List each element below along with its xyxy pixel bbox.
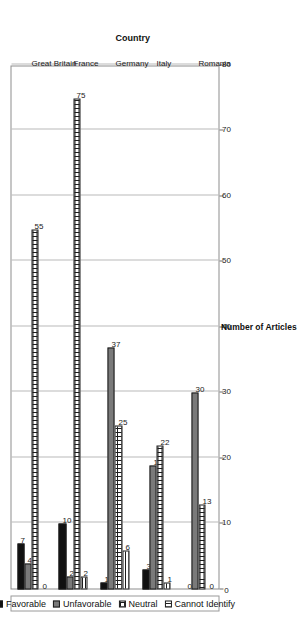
bar-cannot-identify[interactable] bbox=[80, 576, 87, 589]
value-axis-title: Number of Articles bbox=[253, 65, 263, 589]
bar-unfavorable[interactable] bbox=[107, 347, 114, 589]
bar-row: 4 bbox=[24, 65, 31, 589]
bar-row: 22 bbox=[156, 65, 163, 589]
bar-value-label: 6 bbox=[125, 543, 129, 551]
axis-tick-label: 10 bbox=[222, 519, 231, 527]
legend-swatch-icon bbox=[118, 600, 125, 607]
chart-figure: FavorableUnfavorableNeutralCannot Identi… bbox=[0, 0, 299, 633]
axis-tick-label: 0 bbox=[224, 587, 228, 595]
bar-unfavorable[interactable] bbox=[149, 465, 156, 589]
bar-unfavorable[interactable] bbox=[66, 576, 73, 589]
bar-group: 102752 bbox=[52, 65, 94, 589]
bar-cannot-identify[interactable] bbox=[122, 550, 129, 589]
rotated-chart-stage: FavorableUnfavorableNeutralCannot Identi… bbox=[0, 0, 299, 633]
bar-row: 2 bbox=[80, 65, 87, 589]
legend-label: Cannot Identify bbox=[174, 598, 235, 608]
legend-item[interactable]: Neutral bbox=[118, 598, 157, 608]
legend-swatch-icon bbox=[52, 600, 59, 607]
bar-unfavorable[interactable] bbox=[191, 393, 198, 590]
category-label: Great Britain bbox=[31, 59, 76, 67]
value-axis-title-text: Number of Articles bbox=[220, 323, 296, 332]
category-label: Italy bbox=[156, 59, 171, 67]
bar-neutral[interactable] bbox=[73, 98, 80, 589]
bar-value-label: 0 bbox=[42, 582, 46, 590]
axis-tick-label: 20 bbox=[222, 454, 231, 462]
bar-groups: 74550102752137256319221030130 bbox=[10, 65, 219, 589]
bar-value-label: 2 bbox=[83, 569, 87, 577]
bar-row: 55 bbox=[31, 65, 38, 589]
legend-label: Neutral bbox=[128, 598, 157, 608]
bar-row: 19 bbox=[149, 65, 156, 589]
chart-legend: FavorableUnfavorableNeutralCannot Identi… bbox=[10, 595, 219, 611]
bar-row: 7 bbox=[17, 65, 24, 589]
bar-favorable[interactable] bbox=[17, 543, 24, 589]
category-axis-title-text: Country bbox=[115, 32, 150, 42]
bar-neutral[interactable] bbox=[156, 445, 163, 589]
bar-row: 37 bbox=[107, 65, 114, 589]
bar-group: 137256 bbox=[94, 65, 136, 589]
axis-tick bbox=[219, 588, 223, 589]
bar-value-label: 0 bbox=[209, 582, 213, 590]
bar-row: 0 bbox=[205, 65, 212, 589]
axis-tick-label: 50 bbox=[222, 257, 231, 265]
bar-row: 0 bbox=[38, 65, 45, 589]
legend-label: Favorable bbox=[5, 598, 45, 608]
axis-tick-label: 70 bbox=[222, 126, 231, 134]
category-label: France bbox=[73, 59, 98, 67]
bar-neutral[interactable] bbox=[198, 504, 205, 589]
bar-group: 319221 bbox=[135, 65, 177, 589]
bar-value-label: 1 bbox=[167, 575, 171, 583]
bar-row: 2 bbox=[66, 65, 73, 589]
axis-tick-label: 60 bbox=[222, 192, 231, 200]
category-label: Germany bbox=[115, 59, 148, 67]
legend-item[interactable]: Unfavorable bbox=[52, 598, 111, 608]
category-label: Romania bbox=[198, 59, 230, 67]
bar-group: 030130 bbox=[177, 65, 219, 589]
legend-swatch-icon bbox=[0, 600, 2, 607]
bar-neutral[interactable] bbox=[31, 229, 38, 589]
bar-row: 10 bbox=[58, 65, 65, 589]
bar-favorable[interactable] bbox=[142, 569, 149, 589]
legend-item[interactable]: Cannot Identify bbox=[164, 598, 235, 608]
legend-swatch-icon bbox=[164, 600, 171, 607]
bar-unfavorable[interactable] bbox=[24, 563, 31, 589]
legend-label: Unfavorable bbox=[62, 598, 111, 608]
bar-row: 75 bbox=[73, 65, 80, 589]
category-axis-title: Country bbox=[10, 17, 219, 37]
legend-item[interactable]: Favorable bbox=[0, 598, 45, 608]
bar-row: 13 bbox=[198, 65, 205, 589]
bar-row: 1 bbox=[163, 65, 170, 589]
bar-row: 0 bbox=[184, 65, 191, 589]
axis-tick-label: 30 bbox=[222, 388, 231, 396]
bar-row: 25 bbox=[114, 65, 121, 589]
bar-row: 6 bbox=[122, 65, 129, 589]
bar-row: 30 bbox=[191, 65, 198, 589]
bar-neutral[interactable] bbox=[114, 425, 121, 589]
bar-group: 74550 bbox=[10, 65, 52, 589]
bar-row: 3 bbox=[142, 65, 149, 589]
bar-row: 1 bbox=[100, 65, 107, 589]
bar-favorable[interactable] bbox=[58, 524, 65, 590]
